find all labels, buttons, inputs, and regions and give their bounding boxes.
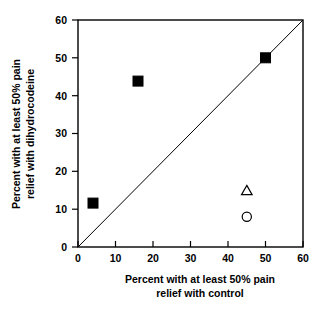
y-tick-label-40: 40 <box>55 90 67 102</box>
data-point-square-2 <box>133 76 143 86</box>
data-point-square-1 <box>88 198 98 208</box>
data-point-circle-1 <box>242 212 251 221</box>
x-axis-ticks <box>78 241 303 247</box>
data-point-triangle-1 <box>242 185 253 194</box>
y-tick-label-10: 10 <box>55 203 67 215</box>
x-axis-title-line1: Percent with at least 50% pain <box>125 273 275 285</box>
y-axis-title-line2: relief with dihydrocodeine <box>24 69 36 199</box>
x-tick-label-20: 20 <box>147 252 159 264</box>
y-axis-title-line1: Percent with at least 50% pain <box>10 59 22 209</box>
y-tick-label-60: 60 <box>55 14 67 26</box>
x-tick-label-0: 0 <box>75 252 81 264</box>
plot-canvas: 0 10 20 30 40 50 60 0 10 20 30 40 50 60 <box>0 0 326 310</box>
y-axis-tick-labels: 0 10 20 30 40 50 60 <box>55 14 67 253</box>
x-tick-label-30: 30 <box>185 252 197 264</box>
x-axis-title: Percent with at least 50% pain relief wi… <box>125 273 275 299</box>
y-tick-label-50: 50 <box>55 52 67 64</box>
y-tick-label-30: 30 <box>55 127 67 139</box>
series-filled-square <box>88 53 271 208</box>
data-point-square-3 <box>261 53 271 63</box>
scatter-plot-figure: 0 10 20 30 40 50 60 0 10 20 30 40 50 60 <box>0 0 326 310</box>
y-tick-label-0: 0 <box>61 241 67 253</box>
x-tick-label-50: 50 <box>260 252 272 264</box>
y-tick-label-20: 20 <box>55 165 67 177</box>
x-axis-title-line2: relief with control <box>156 287 244 299</box>
y-axis-ticks <box>72 20 78 247</box>
x-axis-tick-labels: 0 10 20 30 40 50 60 <box>75 252 309 264</box>
x-tick-label-40: 40 <box>222 252 234 264</box>
x-tick-label-60: 60 <box>297 252 309 264</box>
x-tick-label-10: 10 <box>110 252 122 264</box>
series-open-circle <box>242 212 251 221</box>
series-open-triangle <box>242 185 253 194</box>
y-axis-title: Percent with at least 50% pain relief wi… <box>10 59 36 209</box>
